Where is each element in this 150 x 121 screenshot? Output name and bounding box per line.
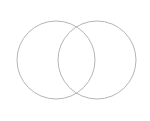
background xyxy=(0,0,150,121)
diagram-canvas xyxy=(0,0,150,121)
venn-diagram xyxy=(0,0,150,121)
